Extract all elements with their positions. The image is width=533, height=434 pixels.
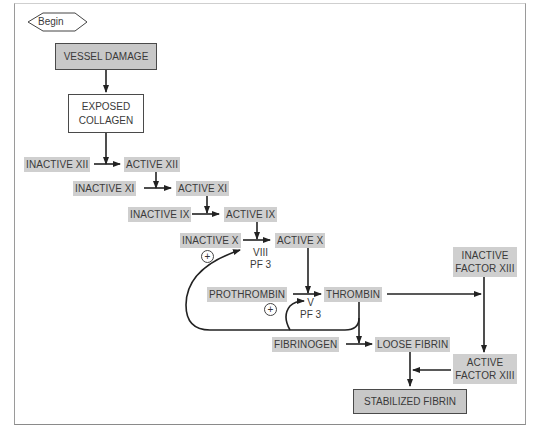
node-inactive-factor-xiii: INACTIVE FACTOR XIII — [453, 247, 517, 277]
positive-feedback-icon: + — [201, 250, 214, 263]
node-inactive-x: INACTIVE X — [180, 233, 241, 248]
cofactor-viii-pf3: VIII PF 3 — [250, 247, 271, 271]
node-active-xi: ACTIVE XI — [176, 181, 229, 196]
cofactor-v-pf3: V PF 3 — [300, 297, 321, 321]
positive-feedback-icon: + — [264, 303, 277, 316]
node-label: STABILIZED FIBRIN — [364, 395, 456, 409]
node-exposed-collagen: EXPOSED COLLAGEN — [68, 94, 144, 133]
node-active-xii: ACTIVE XII — [124, 157, 180, 172]
node-active-ix: ACTIVE IX — [224, 207, 277, 222]
node-stabilized-fibrin: STABILIZED FIBRIN — [353, 389, 467, 414]
node-label: VESSEL DAMAGE — [64, 50, 149, 64]
node-inactive-xii: INACTIVE XII — [24, 157, 90, 172]
node-fibrinogen: FIBRINOGEN — [272, 337, 339, 352]
node-thrombin: THROMBIN — [324, 287, 382, 302]
node-active-factor-xiii: ACTIVE FACTOR XIII — [453, 354, 517, 384]
node-active-x: ACTIVE X — [275, 233, 325, 248]
begin-label: Begin — [38, 16, 64, 28]
node-vessel-damage: VESSEL DAMAGE — [55, 43, 157, 70]
node-loose-fibrin: LOOSE FIBRIN — [375, 337, 450, 352]
node-prothrombin: PROTHROMBIN — [207, 287, 287, 302]
node-inactive-xi: INACTIVE XI — [73, 181, 136, 196]
node-label: EXPOSED COLLAGEN — [79, 100, 133, 128]
node-inactive-ix: INACTIVE IX — [128, 207, 191, 222]
